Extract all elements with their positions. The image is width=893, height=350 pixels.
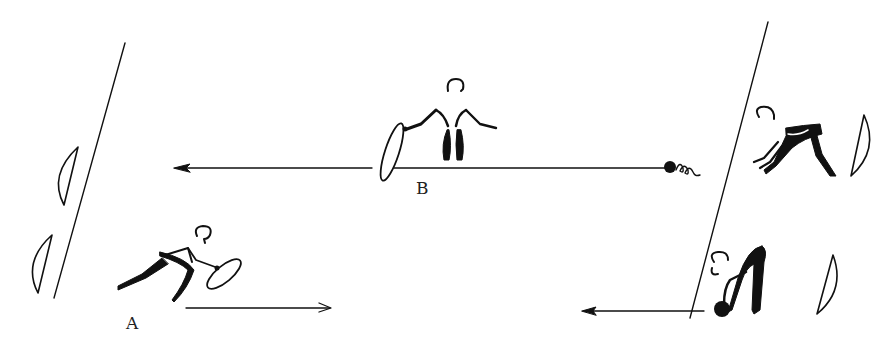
- left-boundary-line: [54, 43, 125, 298]
- hoop-a-icon: [203, 254, 245, 293]
- mat-right-lower-icon: [817, 255, 837, 314]
- mat-left-upper-icon: [58, 147, 78, 205]
- ball-icon: [664, 161, 676, 173]
- figure-a-head-icon: [196, 226, 211, 243]
- figure-bending-forward: [754, 107, 836, 176]
- exercise-diagram: [0, 0, 893, 350]
- ball-trail-icon: [676, 164, 700, 175]
- mat-right-upper-icon: [851, 115, 870, 176]
- figure-a-lunging-with-hoop: [118, 226, 245, 302]
- ball-held-icon: [714, 301, 730, 317]
- figure-bend-head-icon: [757, 107, 774, 119]
- figure-b-standing-with-hoop: [376, 79, 496, 183]
- mat-left-lower-icon: [32, 235, 52, 293]
- figure-bending-over-ball: [712, 246, 766, 317]
- label-a: A: [126, 313, 138, 333]
- figure-ball-head-icon: [712, 252, 728, 275]
- label-b: B: [416, 178, 429, 198]
- figure-b-head-icon: [448, 79, 464, 91]
